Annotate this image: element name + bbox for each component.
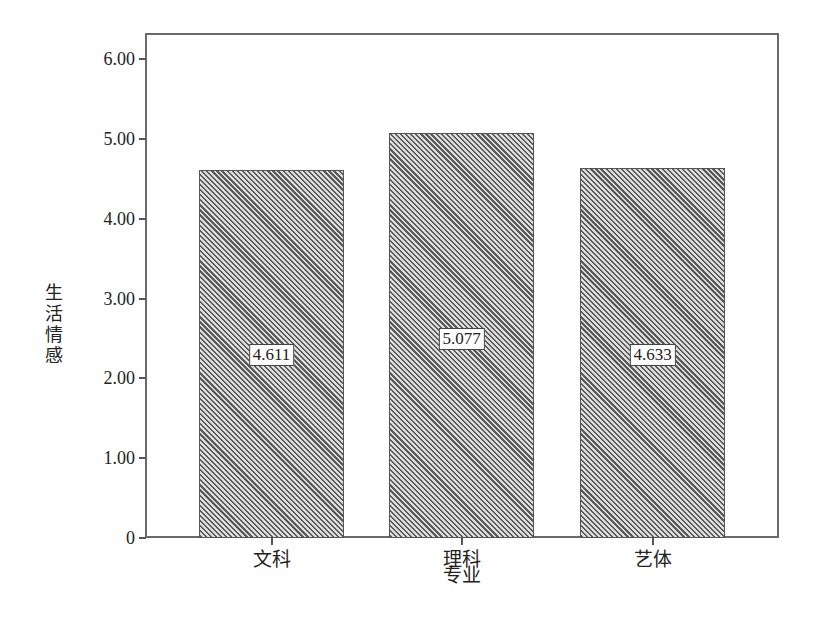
x-category-label: 文科 <box>253 550 291 570</box>
y-tick-label: 6.00 <box>75 50 135 68</box>
x-tick <box>652 538 654 545</box>
bar-value-label: 4.611 <box>249 344 295 366</box>
y-tick-label: 0 <box>75 529 135 547</box>
x-tick <box>461 538 463 545</box>
x-axis-title: 专业 <box>443 566 481 586</box>
y-axis-title-char: 生 <box>44 283 64 304</box>
y-tick <box>139 138 146 140</box>
y-tick <box>139 377 146 379</box>
y-tick-label: 2.00 <box>75 369 135 387</box>
y-tick <box>139 457 146 459</box>
y-axis-title-char: 活 <box>44 304 64 325</box>
y-tick-label: 3.00 <box>75 290 135 308</box>
x-tick <box>271 538 273 545</box>
y-tick-label: 4.00 <box>75 210 135 228</box>
y-tick-label: 5.00 <box>75 130 135 148</box>
y-axis-title-char: 感 <box>44 346 64 367</box>
y-tick <box>139 218 146 220</box>
bar-value-label: 4.633 <box>629 344 675 366</box>
y-tick <box>139 58 146 60</box>
bar-value-label: 5.077 <box>438 328 484 350</box>
y-axis-title: 生活情感 <box>44 283 64 367</box>
y-tick <box>139 298 146 300</box>
y-tick <box>139 537 146 539</box>
y-axis-title-char: 情 <box>44 325 64 346</box>
y-tick-label: 1.00 <box>75 449 135 467</box>
bar-chart: 01.002.003.004.005.006.00 4.6115.0774.63… <box>0 0 817 621</box>
x-category-label: 艺体 <box>634 550 672 570</box>
